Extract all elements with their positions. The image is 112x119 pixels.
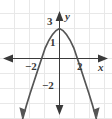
x-axis	[3, 55, 108, 63]
y-tick-label-neg2: −2	[42, 80, 54, 91]
y-tick-label-1: 1	[50, 37, 56, 48]
coordinate-plane	[0, 0, 112, 119]
y-tick-label-3: 3	[47, 16, 53, 27]
x-tick-label-2: 2	[77, 61, 83, 72]
y-axis	[56, 11, 64, 115]
graph-figure: 3 1 −2 −2 2 y x	[0, 0, 112, 119]
y-axis-label: y	[65, 11, 70, 22]
grid-lines	[0, 0, 112, 119]
x-axis-label: x	[98, 62, 104, 73]
x-tick-label-neg2: −2	[25, 61, 37, 72]
